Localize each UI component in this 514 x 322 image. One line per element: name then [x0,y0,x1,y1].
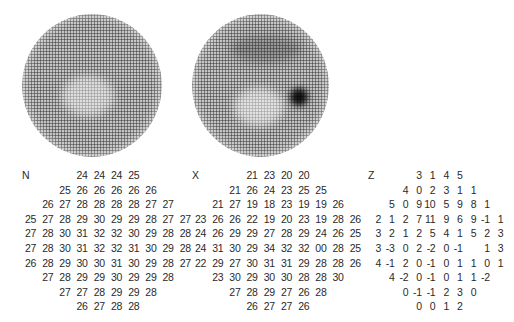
grid-value: 19 [312,197,329,212]
grid-value: 1 [450,226,463,241]
left-greyscale-disc [22,14,162,157]
grid-value: 2 [409,241,422,256]
grid-value: 23 [209,270,226,285]
grid-value: 19 [295,197,312,212]
grid-value: 26 [74,299,91,314]
grid-value: 28 [142,285,159,300]
grid-value: 25 [56,183,73,198]
grid-value: 9 [436,212,449,227]
grid-value: 27 [261,226,278,241]
grid-value: 30 [56,226,73,241]
grid-value: 0 [436,241,449,256]
grid-value: 0 [477,256,490,271]
grid-value: 28 [278,226,295,241]
grid-value: 27 [278,299,295,314]
grid-value: 31 [209,241,226,256]
grid-value: 30 [108,270,125,285]
grid-value: 25 [295,183,312,198]
grid-value: 4 [395,183,408,198]
grid-value: 0 [422,299,435,314]
grid-value: 0 [395,197,408,212]
grid-value: 24 [312,226,329,241]
deviation-values-grid: Z 3145402311509105981212711969-113212541… [368,168,514,318]
grid-value: 28 [160,270,177,285]
grid-value: 29 [125,212,142,227]
grid-value: 22 [192,256,209,271]
grid-value: -1 [382,256,395,271]
grid-value: 26 [330,197,347,212]
grid-value: 0 [409,256,422,271]
grid-value: 26 [209,226,226,241]
grid-value: 28 [160,226,177,241]
grid-value: 26 [295,299,312,314]
grid-value: 19 [312,212,329,227]
grid-value: 24 [192,226,209,241]
grid-value: 1 [422,168,435,183]
grid-value: 9 [409,197,422,212]
grid-value: 26 [244,299,261,314]
grid-value: 27 [22,226,39,241]
grid-value: 21 [226,183,243,198]
grid-value: 27 [160,197,177,212]
grid-value: 28 [91,197,108,212]
grid-value: 29 [295,256,312,271]
grid-value: 28 [56,212,73,227]
edge-shade [22,14,162,157]
grid-value: 0 [463,285,476,300]
grid-value: 27 [39,212,56,227]
grid-value: -1 [409,285,422,300]
grid-value: 6 [450,212,463,227]
grid-value: 29 [74,270,91,285]
grid-value: 28 [39,226,56,241]
grid-value: 31 [74,226,91,241]
grid-value: 30 [74,256,91,271]
grid-value: 19 [261,212,278,227]
grid-value: 3 [450,285,463,300]
grid-value: 31 [125,241,142,256]
grid-value: 0 [409,270,422,285]
grid-value: 30 [91,256,108,271]
grid-value: 2 [422,183,435,198]
grid-value: 27 [56,197,73,212]
grid-value: 23 [192,212,209,227]
grid-value: 29 [108,285,125,300]
grid-value: 34 [261,241,278,256]
grid-value: 1 [490,212,503,227]
grid-value: 1 [463,270,476,285]
grid-value: 3 [490,241,503,256]
grid-value: 29 [295,226,312,241]
grid-value: 31 [278,256,295,271]
grid-value: 20 [278,168,295,183]
grid-value: -1 [422,256,435,271]
grid-value: 1 [450,183,463,198]
grid-value: 2 [477,226,490,241]
grid-value: 26 [347,212,364,227]
grid-value: 29 [142,256,159,271]
grid-label-x: X [192,168,199,183]
grid-value: 27 [278,285,295,300]
grid-value: 31 [74,241,91,256]
grid-value: 30 [56,241,73,256]
grid-value: 24 [74,168,91,183]
grid-value: 27 [226,285,243,300]
grid-value: 28 [312,270,329,285]
grid-value: 29 [74,212,91,227]
grid-value: 32 [108,226,125,241]
grid-value: 2 [382,226,395,241]
grid-value: 31 [261,256,278,271]
grid-value: 5 [436,197,449,212]
grid-value: 29 [142,226,159,241]
grid-value: 27 [160,212,177,227]
grid-value: 3 [409,168,422,183]
grid-value: 00 [312,241,329,256]
grid-value: 5 [422,226,435,241]
grid-value: 26 [39,197,56,212]
grid-value: 28 [56,270,73,285]
grid-value: 28 [312,256,329,271]
grid-value: 25 [347,241,364,256]
grid-value: 20 [295,168,312,183]
grid-value: 28 [244,285,261,300]
grid-value: 30 [142,241,159,256]
grid-value: 29 [56,256,73,271]
grid-value: 5 [463,226,476,241]
